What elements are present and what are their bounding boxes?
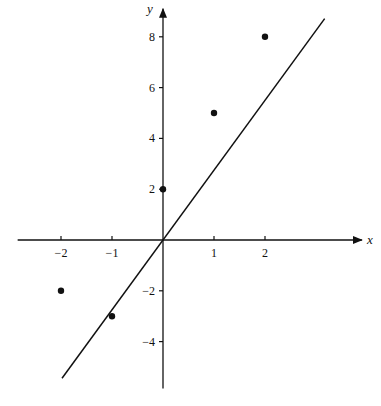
y-tick-label: 2 xyxy=(149,182,155,196)
x-tick-label: 1 xyxy=(211,246,217,260)
y-axis-label: y xyxy=(145,1,153,16)
x-tick-label: −2 xyxy=(55,246,68,260)
y-tick-label: 4 xyxy=(149,131,155,145)
scatter-chart: x y −2−1128642−2−4 xyxy=(0,0,381,406)
x-tick-label: 2 xyxy=(262,246,268,260)
y-tick-label: −2 xyxy=(142,284,155,298)
x-tick-label: −1 xyxy=(106,246,119,260)
x-axis-label: x xyxy=(366,232,373,247)
data-point xyxy=(58,288,64,294)
data-point xyxy=(109,313,115,319)
y-tick-label: 8 xyxy=(149,30,155,44)
y-tick-label: 6 xyxy=(149,81,155,95)
fit-line xyxy=(62,19,325,379)
data-point xyxy=(262,34,268,40)
data-point xyxy=(160,186,166,192)
y-tick-label: −4 xyxy=(142,335,155,349)
data-point xyxy=(211,110,217,116)
